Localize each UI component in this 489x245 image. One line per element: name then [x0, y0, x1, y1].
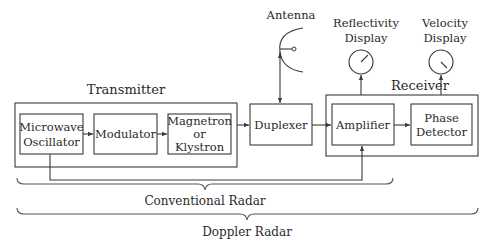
magnetron-label-line3: Klystron — [175, 140, 225, 154]
oscillator-block: Microwave Oscillator — [19, 114, 84, 154]
conventional-radar-label: Conventional Radar — [144, 194, 265, 208]
doppler-radar-label: Doppler Radar — [202, 225, 292, 239]
reflectivity-display-label-line1: Reflectivity — [333, 16, 399, 30]
doppler-brace-icon — [17, 208, 478, 220]
velocity-display-label-line2: Display — [423, 31, 467, 45]
antenna: Antenna — [266, 8, 316, 72]
modulator-block: Modulator — [94, 114, 157, 154]
duplexer-block: Duplexer — [250, 104, 312, 145]
oscillator-label-line2: Oscillator — [23, 135, 80, 149]
phase-detector-block: Phase Detector — [411, 104, 472, 145]
transmitter-label: Transmitter — [87, 82, 166, 97]
radar-block-diagram: Transmitter Receiver Microwave Oscillato… — [0, 0, 489, 245]
conventional-radar-brace: Conventional Radar — [17, 178, 393, 208]
reflectivity-display-label-line2: Display — [344, 31, 388, 45]
modulator-label: Modulator — [95, 127, 157, 141]
doppler-radar-brace: Doppler Radar — [17, 208, 478, 239]
antenna-feed-horn-icon — [292, 47, 296, 51]
amplifier-label: Amplifier — [335, 118, 390, 132]
oscillator-label-line1: Microwave — [19, 120, 84, 134]
magnetron-label-line1: Magnetron — [167, 114, 232, 128]
amplifier-block: Amplifier — [332, 104, 394, 145]
phase-detector-label-line1: Phase — [424, 111, 459, 125]
antenna-dish-icon — [280, 28, 303, 72]
magnetron-block: Magnetron or Klystron — [167, 114, 232, 154]
magnetron-label-line2: or — [193, 127, 206, 141]
velocity-display-label-line1: Velocity — [421, 16, 468, 30]
reflectivity-display: Reflectivity Display — [333, 16, 399, 74]
antenna-label: Antenna — [266, 8, 316, 22]
phase-detector-label-line2: Detector — [416, 125, 467, 139]
velocity-display: Velocity Display — [421, 16, 468, 74]
duplexer-label: Duplexer — [254, 118, 308, 132]
